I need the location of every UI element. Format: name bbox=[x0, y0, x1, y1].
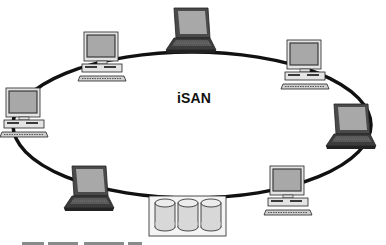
truncated-caption bbox=[8, 238, 148, 245]
laptop-lower-left-laptop-icon bbox=[64, 166, 114, 211]
isan-ring-diagram: iSAN bbox=[0, 0, 386, 245]
desktop-lower-right-desktop-icon bbox=[264, 166, 312, 215]
laptop-top-laptop-icon bbox=[166, 8, 216, 53]
diagram-canvas bbox=[0, 0, 386, 245]
desktop-left-desktop-icon bbox=[0, 88, 48, 137]
network-nodes bbox=[0, 8, 376, 236]
desktop-upper-right-desktop-icon bbox=[281, 40, 329, 89]
desktop-upper-left-desktop-icon bbox=[78, 32, 126, 81]
diagram-title: iSAN bbox=[172, 90, 216, 106]
disk-cylinder-icon bbox=[201, 199, 221, 231]
storage-array-storage-icon bbox=[149, 196, 226, 236]
disk-cylinder-icon bbox=[178, 199, 198, 231]
laptop-right-laptop-icon bbox=[326, 104, 376, 149]
disk-cylinder-icon bbox=[155, 199, 175, 231]
